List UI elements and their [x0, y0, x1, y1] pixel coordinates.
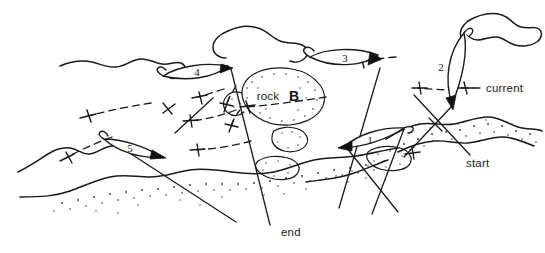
navigation-diagram: 4 3 2 1 5 roc	[0, 0, 545, 253]
current-arrow-11	[458, 82, 480, 94]
sand-stipple-bottom	[53, 161, 383, 214]
current-arrow-7	[190, 141, 251, 156]
boat-2[interactable]: 2	[438, 28, 473, 110]
current-arrow-1	[80, 103, 151, 122]
rock-label: rock	[257, 90, 280, 102]
track-boat1-leg-a	[346, 147, 398, 212]
sandbank-right	[386, 117, 542, 152]
track-boat4-approach	[175, 98, 213, 133]
rock-small-3-stipple	[373, 150, 402, 167]
rock-small-1-stipple	[277, 131, 300, 148]
current-arrow-8	[60, 137, 112, 163]
rock-small-1	[272, 127, 308, 151]
current-arrow-10	[225, 110, 240, 132]
boat-3[interactable]: 3	[304, 47, 382, 65]
boat-5[interactable]: 5	[99, 131, 166, 159]
boat-1-number: 1	[367, 134, 373, 146]
current-label: current	[486, 82, 524, 94]
current-arrow-12	[405, 147, 420, 159]
boat-3-number: 3	[342, 52, 348, 64]
current-arrow-3	[240, 97, 326, 113]
boat-1[interactable]: 1	[338, 127, 413, 152]
track-start-leg	[414, 95, 470, 155]
boat-1-bow	[338, 141, 352, 151]
shoreline-top-middle	[213, 26, 307, 62]
diagram-canvas: 4 3 2 1 5 roc	[0, 0, 545, 253]
rock-letter-label: B	[289, 88, 299, 104]
end-label: end	[281, 226, 301, 238]
boat-4[interactable]: 4	[157, 64, 233, 79]
shoreline-bottom-left	[18, 146, 136, 172]
rock-small-2	[256, 156, 300, 179]
boat-5-bow	[150, 150, 166, 159]
current-arrow-13	[163, 103, 175, 114]
boat-2-number: 2	[438, 61, 444, 73]
start-label: start	[466, 157, 490, 169]
boat-5-number: 5	[127, 142, 133, 154]
boat-4-number: 4	[194, 66, 200, 78]
